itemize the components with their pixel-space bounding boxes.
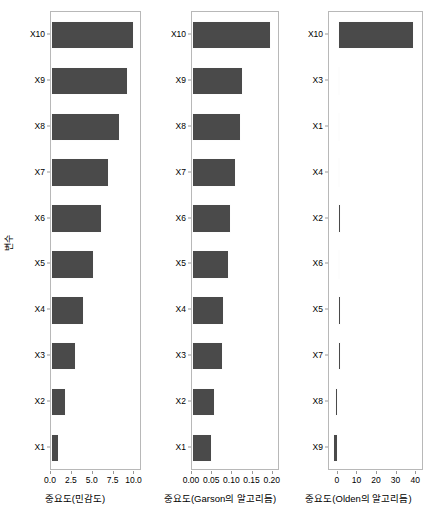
x-tick-label: 2.5 — [65, 475, 77, 485]
y-tick-mark — [325, 447, 328, 448]
x-tick-label: 0.0 — [44, 475, 56, 485]
chart-panel-3: X10X3X1X4X2X6X5X7X8X9010203040중요도(Olden의… — [290, 0, 427, 516]
y-tick-labels-2: X10X9X8X7X6X5X4X3X2X1 — [150, 0, 290, 516]
y-tick-mark — [325, 125, 328, 126]
y-tick-label: X10 — [308, 29, 323, 39]
y-tick-mark — [188, 309, 191, 310]
y-tick-label: X5 — [176, 258, 186, 268]
x-tick-label: 7.5 — [107, 475, 119, 485]
importance-bar-chart-figure: 변수X10X9X8X7X6X5X4X3X2X10.02.55.07.510.0중… — [0, 0, 427, 516]
x-axis-2: 0.000.050.100.150.20 — [191, 471, 279, 493]
x-tick-mark — [92, 471, 93, 474]
x-tick-label: 40 — [410, 475, 419, 485]
y-tick-label: X9 — [176, 75, 186, 85]
y-tick-mark — [47, 263, 50, 264]
y-tick-mark — [47, 401, 50, 402]
x-tick-label: 0 — [334, 475, 339, 485]
y-tick-mark — [47, 79, 50, 80]
y-tick-label: X5 — [35, 258, 45, 268]
y-tick-mark — [47, 33, 50, 34]
y-tick-mark — [47, 217, 50, 218]
x-tick-mark — [396, 471, 397, 474]
x-tick-mark — [50, 471, 51, 474]
y-tick-label: X2 — [313, 213, 323, 223]
y-tick-label: X1 — [313, 121, 323, 131]
chart-panel-1: 변수X10X9X8X7X6X5X4X3X2X10.02.55.07.510.0중… — [0, 0, 150, 516]
y-tick-mark — [188, 355, 191, 356]
x-tick-mark — [113, 471, 114, 474]
x-tick-label: 10 — [352, 475, 361, 485]
x-axis-title-1: 중요도(민감도) — [0, 491, 150, 505]
y-tick-mark — [47, 171, 50, 172]
y-tick-mark — [325, 355, 328, 356]
x-axis-title-3: 중요도(Olden의 알고리듬) — [290, 491, 427, 505]
y-tick-mark — [325, 309, 328, 310]
x-tick-label: 30 — [391, 475, 400, 485]
x-tick-label: 0.05 — [203, 475, 220, 485]
y-tick-label: X4 — [313, 167, 323, 177]
y-tick-mark — [188, 79, 191, 80]
x-tick-label: 10.0 — [125, 475, 142, 485]
y-tick-label: X3 — [35, 350, 45, 360]
x-tick-mark — [356, 471, 357, 474]
y-tick-mark — [325, 401, 328, 402]
y-tick-label: X8 — [313, 396, 323, 406]
x-tick-mark — [252, 471, 253, 474]
y-tick-label: X3 — [176, 350, 186, 360]
y-tick-mark — [325, 79, 328, 80]
y-tick-mark — [188, 125, 191, 126]
y-tick-mark — [47, 125, 50, 126]
y-tick-mark — [188, 447, 191, 448]
x-tick-mark — [71, 471, 72, 474]
y-tick-label: X6 — [35, 213, 45, 223]
y-tick-label: X4 — [35, 304, 45, 314]
y-tick-mark — [325, 217, 328, 218]
y-tick-mark — [325, 263, 328, 264]
x-axis-title-2: 중요도(Garson의 알고리듬) — [150, 491, 290, 505]
y-tick-mark — [325, 171, 328, 172]
y-tick-labels-3: X10X3X1X4X2X6X5X7X8X9 — [290, 0, 427, 516]
y-tick-label: X8 — [35, 121, 45, 131]
y-tick-label: X10 — [30, 29, 45, 39]
x-tick-mark — [231, 471, 232, 474]
y-tick-label: X5 — [313, 304, 323, 314]
x-axis-1: 0.02.55.07.510.0 — [50, 471, 141, 493]
y-tick-mark — [188, 263, 191, 264]
x-tick-mark — [415, 471, 416, 474]
y-tick-label: X9 — [313, 442, 323, 452]
y-tick-mark — [47, 355, 50, 356]
y-tick-mark — [188, 401, 191, 402]
x-tick-mark — [211, 471, 212, 474]
y-tick-mark — [47, 309, 50, 310]
y-tick-label: X1 — [35, 442, 45, 452]
y-tick-label: X1 — [176, 442, 186, 452]
x-tick-label: 20 — [371, 475, 380, 485]
x-tick-label: 0.00 — [183, 475, 200, 485]
y-tick-label: X3 — [313, 75, 323, 85]
y-tick-labels-1: X10X9X8X7X6X5X4X3X2X1 — [0, 0, 150, 516]
y-tick-mark — [188, 33, 191, 34]
y-tick-mark — [325, 33, 328, 34]
y-tick-label: X10 — [171, 29, 186, 39]
x-tick-mark — [376, 471, 377, 474]
y-tick-mark — [188, 171, 191, 172]
y-tick-label: X6 — [176, 213, 186, 223]
y-tick-label: X6 — [313, 258, 323, 268]
y-tick-mark — [188, 217, 191, 218]
y-tick-label: X7 — [35, 167, 45, 177]
y-tick-label: X4 — [176, 304, 186, 314]
y-tick-label: X2 — [35, 396, 45, 406]
x-tick-label: 0.20 — [263, 475, 280, 485]
x-tick-label: 0.15 — [243, 475, 260, 485]
x-tick-mark — [272, 471, 273, 474]
y-tick-label: X8 — [176, 121, 186, 131]
x-tick-label: 0.10 — [223, 475, 240, 485]
y-tick-label: X7 — [313, 350, 323, 360]
y-tick-label: X7 — [176, 167, 186, 177]
x-tick-label: 5.0 — [86, 475, 98, 485]
x-tick-mark — [191, 471, 192, 474]
x-tick-mark — [133, 471, 134, 474]
y-tick-label: X2 — [176, 396, 186, 406]
y-tick-label: X9 — [35, 75, 45, 85]
x-axis-3: 010203040 — [328, 471, 423, 493]
